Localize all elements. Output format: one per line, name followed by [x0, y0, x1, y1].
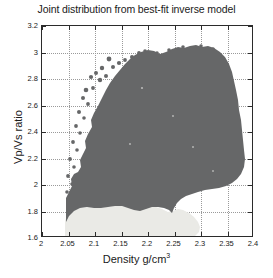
x-tick-mark — [148, 26, 149, 30]
x-tick-label: 2.1 — [89, 239, 99, 248]
y-tick-mark — [248, 26, 252, 27]
y-tick-mark — [248, 53, 252, 54]
y-tick-mark — [42, 79, 46, 80]
x-axis-title-exponent: 3 — [166, 252, 170, 259]
x-tick-mark — [175, 26, 176, 30]
x-tick-label: 2.2 — [142, 239, 152, 248]
y-tick-mark — [42, 26, 46, 27]
x-tick-mark — [95, 232, 96, 236]
y-tick-mark — [248, 79, 252, 80]
y-tick-label: 1.6 — [28, 233, 38, 242]
y-tick-label: 2.8 — [28, 74, 38, 83]
y-tick-mark — [248, 212, 252, 213]
x-tick-mark — [228, 232, 229, 236]
x-tick-label: 2.05 — [60, 239, 75, 248]
x-tick-label: 2.35 — [219, 239, 234, 248]
y-tick-mark — [248, 106, 252, 107]
y-tick-label: 2.6 — [28, 100, 38, 109]
y-tick-mark — [248, 185, 252, 186]
x-tick-mark — [69, 232, 70, 236]
y-tick-label: 2.4 — [28, 127, 38, 136]
x-tick-mark — [69, 26, 70, 30]
scatter-cloud-layer — [42, 26, 252, 236]
y-tick-mark — [42, 159, 46, 160]
x-tick-mark — [42, 232, 43, 236]
x-tick-mark — [175, 232, 176, 236]
y-tick-mark — [42, 185, 46, 186]
x-tick-mark — [122, 26, 123, 30]
x-tick-mark — [228, 26, 229, 30]
x-axis-title-text: Density g/cm — [103, 253, 167, 265]
y-tick-mark — [42, 53, 46, 54]
y-tick-mark — [248, 132, 252, 133]
y-tick-mark — [248, 159, 252, 160]
chart-title: Joint distribution from best-fit inverse… — [0, 3, 273, 15]
y-tick-label: 2 — [34, 180, 38, 189]
x-tick-mark — [95, 26, 96, 30]
x-tick-label: 2.3 — [195, 239, 205, 248]
x-tick-label: 2 — [39, 239, 43, 248]
x-tick-mark — [201, 232, 202, 236]
y-tick-label: 3 — [34, 47, 38, 56]
x-tick-label: 2.25 — [166, 239, 181, 248]
x-axis-title: Density g/cm3 — [0, 252, 273, 265]
x-tick-mark — [122, 232, 123, 236]
figure-scatter-joint-distribution: Joint distribution from best-fit inverse… — [0, 0, 273, 278]
y-tick-label: 1.8 — [28, 206, 38, 215]
x-tick-mark — [201, 26, 202, 30]
plot-axes — [41, 25, 253, 237]
y-tick-label: 3.2 — [28, 21, 38, 30]
x-tick-mark — [148, 232, 149, 236]
y-axis-title: Vp/Vs ratio — [12, 82, 24, 192]
x-tick-label: 2.4 — [248, 239, 258, 248]
scatter-series-low-vpvs-tail — [65, 206, 200, 236]
plot-area — [42, 26, 252, 236]
x-tick-label: 2.15 — [113, 239, 128, 248]
y-tick-label: 2.2 — [28, 153, 38, 162]
y-tick-mark — [42, 212, 46, 213]
y-tick-mark — [42, 132, 46, 133]
y-tick-mark — [42, 106, 46, 107]
